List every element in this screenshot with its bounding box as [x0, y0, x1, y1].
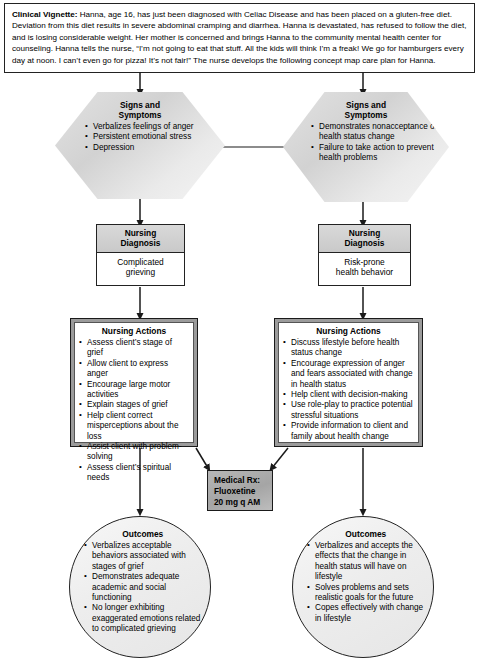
list-item: Use role-play to practice potential stre…: [283, 400, 414, 421]
outcomes-title-right: Outcomes: [307, 529, 425, 539]
list-item: Assist client with problem-solving: [79, 442, 189, 463]
list-item: Allow client to express anger: [79, 359, 189, 380]
rx-line-3: 20 mg q AM: [214, 497, 267, 508]
list-item: Persistent emotional stress: [85, 132, 211, 142]
list-item: Solves problems and sets realistic goals…: [307, 583, 425, 604]
list-item: Verbalizes feelings of anger: [85, 122, 211, 132]
actions-title-right: Nursing Actions: [283, 326, 414, 336]
list-item: Assess client’s stage of grief: [79, 338, 189, 359]
list-item: Encourage expression of anger and fears …: [283, 359, 414, 390]
nursing-diagnosis-box-left: NursingDiagnosis Complicatedgrieving: [96, 224, 185, 286]
list-item: Verbalizes and accepts the effects that …: [307, 541, 425, 583]
diagnosis-header-left: NursingDiagnosis: [97, 225, 184, 253]
list-item: Demonstrates adequate academic and socia…: [84, 572, 202, 603]
outcomes-oval-left: Outcomes Verbalizes acceptable behaviors…: [69, 516, 211, 658]
nursing-diagnosis-box-right: NursingDiagnosis Risk-pronehealth behavi…: [318, 224, 411, 286]
list-item: Depression: [85, 143, 211, 153]
list-item: Help client with decision-making: [283, 390, 414, 400]
concept-map-diagram: Clinical Vignette: Hanna, age 16, has ju…: [0, 0, 479, 667]
diagnosis-body-right: Risk-pronehealth behavior: [319, 253, 410, 282]
list-item: Failure to take action to prevent health…: [311, 143, 437, 164]
actions-title-left: Nursing Actions: [79, 326, 189, 336]
outcomes-title-left: Outcomes: [84, 529, 202, 539]
diagnosis-header-right: NursingDiagnosis: [319, 225, 410, 253]
list-item: Discuss lifestyle before health status c…: [283, 338, 414, 359]
list-item: Demonstrates nonacceptance of health sta…: [311, 122, 437, 143]
list-item: Copes effectively with change in lifesty…: [307, 603, 425, 624]
nursing-actions-box-right: Nursing Actions Discuss lifestyle before…: [274, 318, 423, 447]
list-item: Assess client’s spiritual needs: [79, 463, 189, 484]
diagnosis-body-left: Complicatedgrieving: [97, 253, 184, 282]
medical-rx-box: Medical Rx: Fluoxetine 20 mg q AM: [207, 470, 273, 511]
rx-line-2: Fluoxetine: [214, 486, 267, 497]
rx-line-1: Medical Rx:: [214, 475, 267, 486]
list-item: Help client correct misperceptions about…: [79, 411, 189, 442]
list-item: Explain stages of grief: [79, 400, 189, 410]
list-item: Verbalizes acceptable behaviors associat…: [84, 541, 202, 572]
list-item: Provide information to client and family…: [283, 421, 414, 442]
nursing-actions-box-left: Nursing Actions Assess client’s stage of…: [70, 318, 198, 447]
outcomes-oval-right: Outcomes Verbalizes and accepts the effe…: [292, 516, 434, 658]
list-item: Encourage large motor activities: [79, 380, 189, 401]
list-item: No longer exhibiting exaggerated emotion…: [84, 603, 202, 634]
